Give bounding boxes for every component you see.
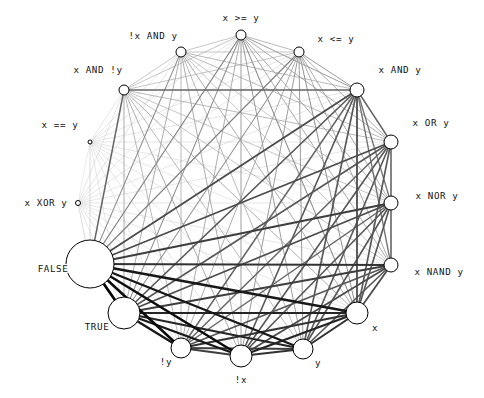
graph-node[interactable] xyxy=(66,240,114,288)
graph-edge xyxy=(90,264,391,265)
graph-node-label: !y xyxy=(160,356,172,367)
graph-edge xyxy=(241,35,299,52)
graph-edge xyxy=(90,142,391,203)
graph-node-label: TRUE xyxy=(85,321,110,332)
graph-node[interactable] xyxy=(384,135,398,149)
graph-edge xyxy=(299,52,391,203)
graph-node-label: x OR y xyxy=(413,117,450,128)
graph-edge xyxy=(78,90,124,203)
graph-node-label: x xyxy=(372,322,378,333)
graph-node-label: !x AND y xyxy=(128,30,177,41)
graph-node[interactable] xyxy=(384,258,398,272)
graph-node[interactable] xyxy=(76,201,81,206)
graph-edge xyxy=(78,35,241,203)
graph-node[interactable] xyxy=(119,85,129,95)
graph-edge xyxy=(124,203,391,313)
graph-node[interactable] xyxy=(171,338,191,358)
network-graph-figure: x >= yx <= yx AND yx OR yx NOR yx NAND y… xyxy=(0,0,484,398)
graph-node[interactable] xyxy=(108,297,140,329)
graph-node-label: x >= y xyxy=(223,12,260,23)
graph-node[interactable] xyxy=(294,47,304,57)
graph-edge xyxy=(181,52,357,313)
graph-node[interactable] xyxy=(88,140,92,144)
graph-node-label: !x xyxy=(235,374,247,385)
graph-node[interactable] xyxy=(230,345,252,367)
graph-node[interactable] xyxy=(176,47,186,57)
graph-node[interactable] xyxy=(236,30,246,40)
graph-node-label: FALSE xyxy=(38,263,69,274)
graph-canvas: x >= yx <= yx AND yx OR yx NOR yx NAND y… xyxy=(0,0,484,398)
graph-node[interactable] xyxy=(346,302,368,324)
graph-edge xyxy=(299,52,357,90)
graph-node-label: x AND !y xyxy=(73,64,122,75)
graph-edge xyxy=(241,35,391,203)
graph-node-label: x AND y xyxy=(379,64,422,75)
graph-node[interactable] xyxy=(384,196,398,210)
graph-edge xyxy=(124,52,181,313)
graph-node-label: x NAND y xyxy=(414,266,463,277)
graph-node-label: x <= y xyxy=(318,33,355,44)
graph-node-label: x XOR y xyxy=(25,197,68,208)
graph-node[interactable] xyxy=(293,339,313,359)
graph-node[interactable] xyxy=(350,83,364,97)
graph-node-label: x NOR y xyxy=(416,190,459,201)
graph-node-label: x == y xyxy=(42,119,79,130)
graph-node-label: y xyxy=(315,357,321,368)
graph-edge xyxy=(241,52,299,356)
